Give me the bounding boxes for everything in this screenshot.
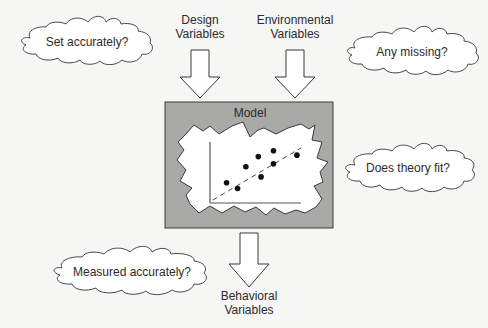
question-any-missing: Any missing? xyxy=(376,45,447,59)
scatter-point xyxy=(224,180,230,186)
environmental-variables-label: Environmental Variables xyxy=(250,13,340,41)
scatter-point xyxy=(271,161,277,167)
design-label-line1: Design xyxy=(168,13,232,27)
design-label-line2: Variables xyxy=(168,27,232,41)
scatter-point xyxy=(235,186,241,192)
behavioral-variables-arrow xyxy=(229,233,269,287)
scatter-point xyxy=(258,174,264,180)
environmental-label-line1: Environmental xyxy=(250,13,340,27)
question-measured-accurately: Measured accurately? xyxy=(73,265,191,279)
design-variables-label: Design Variables xyxy=(168,13,232,41)
question-set-accurately: Set accurately? xyxy=(46,35,129,49)
behavioral-label-line2: Variables xyxy=(214,303,284,317)
behavioral-variables-label: Behavioral Variables xyxy=(214,289,284,317)
question-theory-fit: Does theory fit? xyxy=(366,161,450,175)
model-title: Model xyxy=(220,106,280,120)
design-variables-arrow xyxy=(180,50,220,98)
environmental-label-line2: Variables xyxy=(250,27,340,41)
scatter-point xyxy=(243,164,249,170)
model-jagged-region xyxy=(177,122,328,215)
environmental-variables-arrow xyxy=(275,50,315,98)
scatter-point xyxy=(255,154,261,160)
scatter-point xyxy=(271,148,277,154)
behavioral-label-line1: Behavioral xyxy=(214,289,284,303)
scatter-point xyxy=(294,152,300,158)
